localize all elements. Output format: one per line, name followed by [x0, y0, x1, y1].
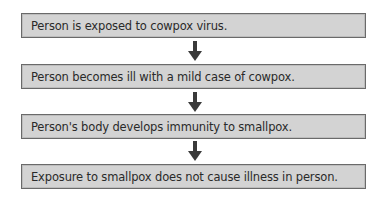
step-box-no-smallpox-illness: Exposure to smallpox does not cause illn… [21, 164, 366, 189]
down-arrow-icon [188, 141, 202, 161]
step-box-exposed-to-cowpox: Person is exposed to cowpox virus. [21, 13, 366, 38]
step-label: Person becomes ill with a mild case of c… [31, 70, 295, 84]
down-arrow-icon [188, 41, 202, 61]
step-box-mild-cowpox-illness: Person becomes ill with a mild case of c… [21, 64, 366, 89]
step-box-develops-immunity: Person's body develops immunity to small… [21, 114, 366, 139]
step-label: Person is exposed to cowpox virus. [31, 19, 227, 33]
step-label: Exposure to smallpox does not cause illn… [31, 170, 338, 184]
step-label: Person's body develops immunity to small… [31, 120, 292, 134]
down-arrow-icon [188, 92, 202, 112]
